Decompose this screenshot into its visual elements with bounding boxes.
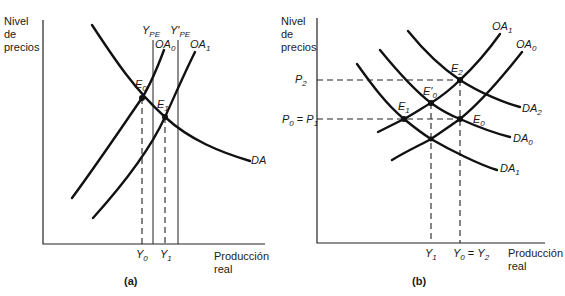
panel-a-da-label: DA xyxy=(251,154,266,166)
panel-a-y-label-line2: de xyxy=(4,28,16,40)
panel-b-p2-tick: P2 xyxy=(295,73,307,88)
panel-a-ype-prime-label: Y'PE xyxy=(170,24,191,39)
panel-a: Nivel de precios Producción real YPE Y'P… xyxy=(4,15,269,287)
panel-b-e0-point xyxy=(457,116,463,122)
panel-a-ype-label: YPE xyxy=(142,24,161,39)
panel-b-axes xyxy=(317,18,545,243)
panel-a-x-label-line2: real xyxy=(214,263,232,275)
panel-a-axes xyxy=(43,20,265,244)
panel-b-da2-label: DA2 xyxy=(522,102,542,117)
panel-b-da1-label: DA1 xyxy=(500,162,520,177)
panel-b-y-label-line1: Nivel xyxy=(281,15,305,27)
panel-b-x-label-line2: real xyxy=(508,260,526,272)
panel-b: Nivel de precios Producción real OA1 OA0… xyxy=(281,15,563,287)
panel-a-oa1-label: OA1 xyxy=(190,38,210,53)
panel-a-y0-tick: Y0 xyxy=(136,248,148,263)
panel-b-oa1-label: OA1 xyxy=(492,20,512,35)
panel-b-e2-point xyxy=(457,77,463,83)
panel-b-e1-point xyxy=(401,116,407,122)
panel-b-oa0-label: OA0 xyxy=(516,38,537,53)
panel-a-oa0-curve xyxy=(72,50,164,198)
panel-a-e0-point xyxy=(139,95,145,101)
panel-b-x-label-line1: Producción xyxy=(508,247,563,259)
diagram-canvas: Nivel de precios Producción real YPE Y'P… xyxy=(0,0,565,296)
panel-a-y-label-line3: precios xyxy=(4,41,40,53)
panel-b-da0-label: DA0 xyxy=(513,132,533,147)
panel-b-caption: (b) xyxy=(412,275,426,287)
panel-a-e1-point xyxy=(162,114,168,120)
panel-b-y0y2-tick: Y0 = Y2 xyxy=(453,247,490,262)
panel-a-y1-tick: Y1 xyxy=(160,248,172,263)
panel-b-oa1-curve xyxy=(378,34,500,132)
panel-b-p0p1-tick: P0 = P1 xyxy=(282,113,318,128)
panel-a-y-label-line1: Nivel xyxy=(4,15,28,27)
panel-b-e1-label: E1 xyxy=(398,100,410,115)
panel-a-x-label-line1: Producción xyxy=(214,250,269,262)
panel-b-e0-prime-point xyxy=(428,100,434,106)
panel-b-y1-tick: Y1 xyxy=(425,247,437,262)
panel-a-e0-label: E0 xyxy=(135,78,147,93)
panel-b-y-label-line3: precios xyxy=(281,41,317,53)
panel-a-caption: (a) xyxy=(124,275,138,287)
panel-b-y-label-line2: de xyxy=(281,28,293,40)
panel-b-intersection-point xyxy=(429,137,434,142)
panel-a-oa1-curve xyxy=(93,52,195,218)
panel-a-oa0-label: OA0 xyxy=(155,38,176,53)
